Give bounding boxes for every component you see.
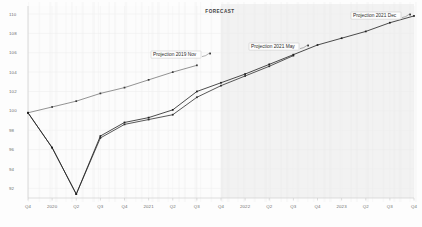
data-point-marker xyxy=(268,65,270,67)
x-axis-tick-label: 2021 xyxy=(143,204,154,209)
x-axis-tick-label: Q4 xyxy=(218,204,225,209)
data-point-marker xyxy=(220,85,222,87)
x-axis-tick-label: Q2 xyxy=(170,204,177,209)
data-point-marker xyxy=(293,54,295,56)
data-point-marker xyxy=(172,109,174,111)
y-axis-tick-label: 102 xyxy=(9,89,17,94)
data-point-marker xyxy=(172,71,174,73)
x-axis-tick-label: Q2 xyxy=(363,204,370,209)
data-point-marker xyxy=(220,82,222,84)
x-axis-tick-label: 2022 xyxy=(240,204,251,209)
data-point-marker xyxy=(27,112,29,114)
y-axis-tick-label: 98 xyxy=(9,128,15,133)
x-axis-tick-label: Q3 xyxy=(387,204,394,209)
x-axis-tick-label: Q3 xyxy=(97,204,104,209)
data-point-marker xyxy=(244,73,246,75)
data-point-marker xyxy=(196,91,198,93)
data-point-marker xyxy=(196,64,198,66)
data-point-marker xyxy=(244,75,246,77)
annotation-endpoint-marker xyxy=(209,53,211,55)
y-axis-tick-label: 104 xyxy=(9,70,17,75)
data-point-marker xyxy=(413,15,415,17)
data-point-marker xyxy=(75,100,77,102)
y-axis-tick-label: 110 xyxy=(9,12,17,17)
data-point-marker xyxy=(148,117,150,119)
x-axis-tick-label: Q4 xyxy=(314,204,321,209)
data-point-marker xyxy=(124,124,126,126)
x-axis-tick-label: 2023 xyxy=(336,204,347,209)
y-axis-tick-label: 108 xyxy=(9,31,17,36)
annotation-label: Projection 2019 Nov xyxy=(153,52,197,57)
data-point-marker xyxy=(341,37,343,39)
data-point-marker xyxy=(389,22,391,24)
data-point-marker xyxy=(148,119,150,121)
forecast-band-label: FORECAST xyxy=(205,9,234,14)
y-axis-tick-label: 100 xyxy=(9,108,17,113)
x-axis-tick-label: Q3 xyxy=(290,204,297,209)
y-axis-tick-label: 92 xyxy=(9,186,15,191)
annotation-label: Projection 2021 May xyxy=(251,44,295,49)
data-point-marker xyxy=(317,44,319,46)
x-axis-tick-label: Q4 xyxy=(121,204,128,209)
x-axis-tick-label: 2020 xyxy=(47,204,58,209)
data-point-marker xyxy=(75,193,77,195)
data-point-marker xyxy=(365,31,367,33)
data-point-marker xyxy=(148,79,150,81)
annotation-endpoint-marker xyxy=(409,14,411,16)
x-axis-tick-label: Q4 xyxy=(411,204,418,209)
data-point-marker xyxy=(100,135,102,137)
data-point-marker xyxy=(124,87,126,89)
x-axis-tick-label: Q4 xyxy=(25,204,32,209)
annotation-label: Projection 2021 Dec xyxy=(353,13,397,18)
x-axis-tick-label: Q2 xyxy=(73,204,80,209)
data-point-marker xyxy=(124,122,126,124)
annotation-endpoint-marker xyxy=(307,45,309,47)
data-point-marker xyxy=(172,114,174,116)
data-point-marker xyxy=(268,64,270,66)
y-axis-tick-label: 96 xyxy=(9,147,15,152)
y-axis-tick-label: 94 xyxy=(9,167,15,172)
line-chart: 11010810610410210098969492Q42020Q2Q3Q420… xyxy=(0,0,422,227)
y-axis-tick-label: 106 xyxy=(9,50,17,55)
data-point-marker xyxy=(100,93,102,95)
x-axis-tick-label: Q2 xyxy=(266,204,273,209)
x-axis-tick-label: Q3 xyxy=(194,204,201,209)
data-point-marker xyxy=(51,147,53,149)
data-point-marker xyxy=(196,96,198,98)
chart-container: 11010810610410210098969492Q42020Q2Q3Q420… xyxy=(0,0,422,227)
data-point-marker xyxy=(51,106,53,108)
